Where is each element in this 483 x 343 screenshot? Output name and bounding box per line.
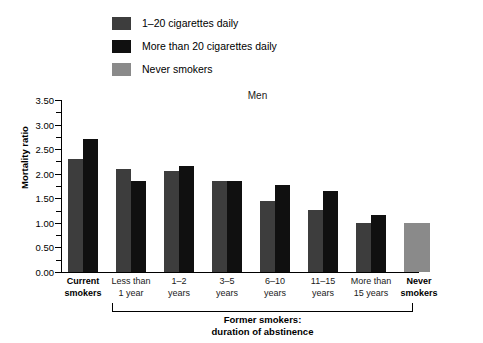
y-axis-tick-mark <box>55 223 61 224</box>
bar <box>116 169 131 272</box>
bar-group <box>212 100 242 272</box>
y-axis-minor-tick-mark <box>56 260 61 261</box>
bar <box>308 210 323 272</box>
y-axis-minor-tick-mark <box>56 161 61 162</box>
y-axis-tick-mark <box>55 149 61 150</box>
y-axis-minor-tick-mark <box>56 186 61 187</box>
legend-item: 1–20 cigarettes daily <box>112 12 412 35</box>
y-axis-tick-label: 0.00 <box>36 267 55 278</box>
bars-container <box>62 100 419 272</box>
y-axis-tick-label: 2.50 <box>36 144 55 155</box>
y-axis-tick-label: 0.50 <box>36 242 55 253</box>
bar <box>323 191 338 272</box>
x-axis-category-label: 3–5years <box>203 276 251 299</box>
x-axis-category-label: More than15 years <box>347 276 395 299</box>
x-axis-tick-labels: CurrentsmokersLess than1 year1–2years3–5… <box>62 276 419 306</box>
bar <box>371 215 386 272</box>
y-axis-tick-mark <box>55 272 61 273</box>
bar <box>356 223 371 272</box>
y-axis-tick-label: 1.00 <box>36 217 55 228</box>
y-axis-tick-mark <box>55 198 61 199</box>
legend-item: Never smokers <box>112 58 412 81</box>
y-axis-tick-mark <box>55 100 61 101</box>
bar <box>179 166 194 272</box>
y-axis-tick-label: 1.50 <box>36 193 55 204</box>
y-axis-minor-tick-mark <box>56 112 61 113</box>
legend-item: More than 20 cigarettes daily <box>112 35 412 58</box>
chart-legend: 1–20 cigarettes dailyMore than 20 cigare… <box>112 12 412 81</box>
x-axis-category-label-line-2: smokers <box>395 288 443 300</box>
bar-group <box>404 100 434 272</box>
bar-group <box>260 100 290 272</box>
x-axis-category-label-line-1: 11–15 <box>299 276 347 288</box>
former-smokers-bracket <box>112 303 413 312</box>
x-axis-category-label-line-2: years <box>155 288 203 300</box>
x-axis-category-label: Neversmokers <box>395 276 443 299</box>
x-axis-category-label-line-1: 1–2 <box>155 276 203 288</box>
legend-swatch-icon <box>112 63 131 76</box>
legend-swatch-icon <box>112 17 131 30</box>
x-axis-category-label-line-2: 1 year <box>107 288 155 300</box>
mortality-ratio-bar-chart: 1–20 cigarettes dailyMore than 20 cigare… <box>0 0 483 343</box>
x-axis-category-label: 1–2years <box>155 276 203 299</box>
bar-group <box>356 100 386 272</box>
legend-swatch-icon <box>112 40 131 53</box>
y-axis-tick-labels: 0.000.501.001.502.002.503.003.50 <box>24 101 54 272</box>
bar <box>212 181 227 272</box>
x-axis-category-label-line-1: Never <box>395 276 443 288</box>
x-axis-category-label-line-2: smokers <box>59 288 107 300</box>
x-axis-category-label-line-2: years <box>299 288 347 300</box>
x-axis-category-label-line-2: 15 years <box>347 288 395 300</box>
bar <box>131 181 146 272</box>
y-axis-minor-tick-mark <box>56 211 61 212</box>
y-axis-tick-label: 3.50 <box>36 95 55 106</box>
x-axis-category-label-line-1: Less than <box>107 276 155 288</box>
former-smokers-bracket-caption: Former smokers: duration of abstinence <box>112 314 413 337</box>
bar-group <box>164 100 194 272</box>
bar <box>260 201 275 272</box>
x-axis-category-label-line-1: Current <box>59 276 107 288</box>
x-axis-category-label: 11–15years <box>299 276 347 299</box>
legend-item-label: More than 20 cigarettes daily <box>142 41 277 52</box>
x-axis-category-label-line-1: 3–5 <box>203 276 251 288</box>
y-axis-tick-label: 3.00 <box>36 119 55 130</box>
bar-group <box>308 100 338 272</box>
bar-group <box>68 100 98 272</box>
bracket-caption-line-2: duration of abstinence <box>112 326 413 338</box>
y-axis-tick-mark <box>55 174 61 175</box>
x-axis-category-label: Less than1 year <box>107 276 155 299</box>
bar <box>404 223 430 272</box>
bracket-caption-line-1: Former smokers: <box>112 314 413 326</box>
y-axis-minor-tick-mark <box>56 235 61 236</box>
bar <box>227 181 242 272</box>
y-axis-tick-mark <box>55 247 61 248</box>
bar-group <box>116 100 146 272</box>
x-axis-category-label-line-2: years <box>251 288 299 300</box>
y-axis-tick-mark <box>55 125 61 126</box>
x-axis-category-label: Currentsmokers <box>59 276 107 299</box>
bar <box>68 159 83 272</box>
legend-item-label: 1–20 cigarettes daily <box>142 18 238 29</box>
x-axis-category-label-line-2: years <box>203 288 251 300</box>
x-axis-line <box>61 272 419 273</box>
bar <box>164 171 179 272</box>
legend-item-label: Never smokers <box>142 64 213 75</box>
x-axis-category-label-line-1: 6–10 <box>251 276 299 288</box>
x-axis-category-label-line-1: More than <box>347 276 395 288</box>
bar <box>83 139 98 272</box>
y-axis-minor-tick-mark <box>56 137 61 138</box>
x-axis-category-label: 6–10years <box>251 276 299 299</box>
bar <box>275 185 290 272</box>
y-axis-tick-label: 2.00 <box>36 168 55 179</box>
